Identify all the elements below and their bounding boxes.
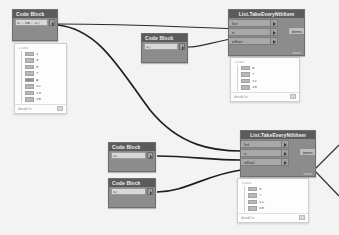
chevron-right-icon[interactable] (282, 140, 289, 148)
list-item-chip (25, 78, 34, 83)
code-block-body: 2; (142, 42, 187, 50)
node-code-block-4[interactable]: Code Block 1; (108, 178, 156, 208)
chevron-right-icon[interactable] (282, 149, 289, 157)
code-input[interactable]: 2; (111, 152, 146, 159)
chevron-right-icon[interactable] (271, 28, 278, 36)
list-item[interactable]: 15 (25, 97, 63, 103)
list-item-chip (248, 200, 257, 205)
input-port-label: offset (229, 37, 271, 45)
list-item[interactable]: 11 (25, 84, 63, 90)
code-input[interactable]: 2; (144, 43, 178, 50)
node-title: List.TakeEveryNthItem (241, 131, 315, 139)
chevron-right-icon[interactable] (282, 158, 289, 166)
list-item-value: 11 (36, 84, 41, 89)
list-item-value: 15 (252, 85, 257, 90)
pin-icon[interactable] (299, 215, 305, 220)
list-item[interactable]: 1 (25, 51, 63, 57)
code-block-body: 2; (109, 151, 155, 159)
output-port-icon[interactable] (179, 43, 185, 50)
input-port-label: offset (241, 158, 282, 166)
node-code-block-3[interactable]: Code Block 2; (108, 142, 156, 172)
code-input[interactable]: 1..10..2; (15, 19, 48, 26)
node-body-filler (109, 195, 155, 207)
preview-bubble-3[interactable]: List 371115 double (237, 178, 309, 223)
output-port-icon[interactable] (49, 19, 55, 26)
list-item[interactable]: 15 (241, 85, 296, 91)
input-port-offset[interactable]: offset (229, 37, 278, 45)
list-item[interactable]: 5 (25, 64, 63, 70)
node-body-filler (13, 26, 57, 40)
output-port-icon[interactable] (147, 152, 153, 159)
list-item[interactable]: 13 (25, 90, 63, 96)
wire-take2-items-offscreen (314, 145, 339, 196)
list-item-value: 15 (259, 206, 264, 211)
preview-list-3: 371115 (244, 186, 305, 212)
preview-bubble-2[interactable]: List 571115 double (230, 57, 300, 102)
list-item[interactable]: 15 (248, 206, 305, 212)
preview-title: List (241, 181, 305, 185)
list-item-chip (25, 52, 34, 57)
list-item[interactable]: 7 (25, 71, 63, 77)
chevron-right-icon[interactable] (271, 37, 278, 45)
preview-title: List (234, 60, 296, 64)
list-item-chip (25, 97, 34, 102)
list-item-value: 7 (259, 193, 261, 198)
code-block-body: 1; (109, 187, 155, 195)
input-port-list[interactable]: list (229, 19, 278, 27)
code-block-body: 1..10..2; (13, 18, 57, 26)
list-item-value: 1 (36, 52, 38, 57)
input-port-label: list (229, 19, 271, 27)
list-item[interactable]: 11 (248, 199, 305, 205)
dynamo-graph-canvas[interactable]: Code Block 1..10..2; List 13579111315 do… (0, 0, 339, 235)
pin-icon[interactable] (290, 94, 296, 99)
list-item[interactable]: 9 (25, 77, 63, 83)
input-port-list[interactable]: list (241, 140, 289, 148)
output-port-icon[interactable] (147, 188, 153, 195)
preview-footer: double (238, 213, 308, 222)
code-block-row: 2; (111, 152, 153, 159)
preview-type-label: double (18, 107, 32, 111)
list-item-chip (25, 84, 34, 89)
list-item[interactable]: 3 (25, 58, 63, 64)
input-port-list-1: listnoffset (229, 18, 278, 46)
list-item-value: 15 (36, 97, 41, 102)
input-port-offset[interactable]: offset (241, 158, 289, 166)
input-port-n[interactable]: n (241, 149, 289, 157)
output-port-items[interactable]: items (299, 148, 315, 156)
node-footer-label: items (303, 172, 312, 176)
list-item-chip (248, 206, 257, 211)
list-item[interactable]: 7 (241, 72, 296, 78)
node-list-take-every-nth-item-2[interactable]: List.TakeEveryNthItem listnoffset items … (240, 130, 316, 177)
output-port-list-2: items (289, 139, 315, 167)
list-item-value: 9 (36, 78, 38, 83)
input-port-label: n (241, 149, 282, 157)
preview-bubble-1[interactable]: List 13579111315 double (14, 43, 67, 114)
node-list-take-every-nth-item-1[interactable]: List.TakeEveryNthItem listnoffset items … (228, 9, 305, 56)
code-block-row: 1; (111, 188, 153, 195)
node-title: Code Block (109, 179, 155, 187)
list-item[interactable]: 3 (248, 186, 305, 192)
list-item-chip (241, 85, 250, 90)
list-item[interactable]: 5 (241, 65, 296, 71)
node-body: listnoffset items (241, 139, 315, 167)
code-input[interactable]: 1; (111, 188, 146, 195)
list-item[interactable]: 7 (248, 193, 305, 199)
list-item-value: 3 (259, 187, 261, 192)
node-code-block-2[interactable]: Code Block 2; (141, 33, 188, 63)
pin-icon[interactable] (57, 106, 63, 111)
preview-type-label: double (241, 216, 255, 220)
output-port-items[interactable]: items (288, 27, 304, 35)
list-item[interactable]: 11 (241, 78, 296, 84)
node-code-block-1[interactable]: Code Block 1..10..2; (12, 9, 58, 41)
chevron-right-icon[interactable] (271, 19, 278, 27)
preview-title: List (18, 46, 63, 50)
preview-list-1: 13579111315 (21, 51, 63, 103)
input-port-n[interactable]: n (229, 28, 278, 36)
node-title: List.TakeEveryNthItem (229, 10, 304, 18)
preview-list-2: 571115 (237, 65, 296, 91)
node-footer-label: items (292, 51, 301, 55)
wire-cb3-to-take2-n (157, 156, 241, 160)
list-item-chip (248, 193, 257, 198)
list-item-value: 5 (36, 65, 38, 70)
input-port-label: n (229, 28, 271, 36)
